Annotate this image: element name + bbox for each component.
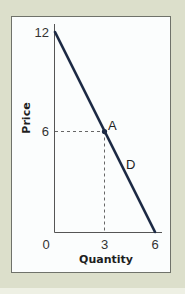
point-a-label: A xyxy=(108,118,117,133)
curve-d-label: D xyxy=(126,157,135,172)
x-tick-3: 3 xyxy=(101,237,108,252)
x-tick-6: 6 xyxy=(151,237,158,252)
demand-chart: 12 6 0 3 6 A D Quantity Price xyxy=(0,0,185,294)
y-tick-12: 12 xyxy=(35,25,49,40)
x-axis-label: Quantity xyxy=(79,253,133,266)
x-tick-0: 0 xyxy=(42,237,49,252)
point-a-marker xyxy=(102,129,107,134)
y-axis-label: Price xyxy=(20,102,33,133)
y-tick-6: 6 xyxy=(42,124,49,139)
